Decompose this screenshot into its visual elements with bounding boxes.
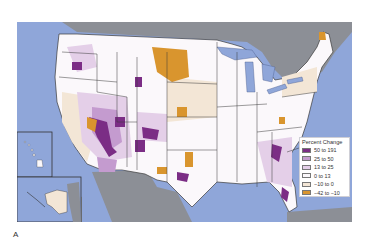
- legend-label: 25 to 50: [314, 156, 333, 162]
- legend-item: 13 to 25: [302, 163, 347, 172]
- legend-swatch: [302, 165, 311, 170]
- panel-label: A: [13, 230, 18, 239]
- legend-swatch: [302, 173, 311, 178]
- region-tx-west-orange: [157, 167, 167, 174]
- legend-label: −10 to 0: [314, 181, 334, 187]
- map-frame: Percent Change 50 to 191 25 to 50 13 to …: [17, 22, 352, 222]
- region-ks-orange: [177, 107, 187, 117]
- legend-swatch: [302, 182, 311, 187]
- cuba-landmass: [287, 207, 352, 222]
- legend-label: −42 to −10: [314, 190, 340, 196]
- legend-item: −10 to 0: [302, 180, 347, 189]
- legend-swatch: [302, 190, 311, 195]
- region-me-orange: [319, 32, 326, 40]
- legend-label: 0 to 13: [314, 173, 331, 179]
- region-id-darkpurple: [135, 77, 142, 87]
- legend-swatch: [302, 156, 311, 161]
- region-or-darkpurple: [72, 62, 82, 70]
- legend-label: 13 to 25: [314, 164, 333, 170]
- legend-item: −42 to −10: [302, 189, 347, 198]
- legend: Percent Change 50 to 191 25 to 50 13 to …: [299, 137, 350, 197]
- legend-item: 0 to 13: [302, 172, 347, 181]
- legend-item: 25 to 50: [302, 155, 347, 164]
- region-ok-orange: [185, 152, 193, 167]
- legend-item: 50 to 191: [302, 146, 347, 155]
- legend-title: Percent Change: [302, 139, 347, 146]
- region-wv-orange: [279, 117, 285, 124]
- legend-swatch: [302, 148, 311, 153]
- region-nm-darkpurple: [135, 140, 145, 152]
- legend-label: 50 to 191: [314, 147, 336, 153]
- lake-michigan: [245, 62, 255, 92]
